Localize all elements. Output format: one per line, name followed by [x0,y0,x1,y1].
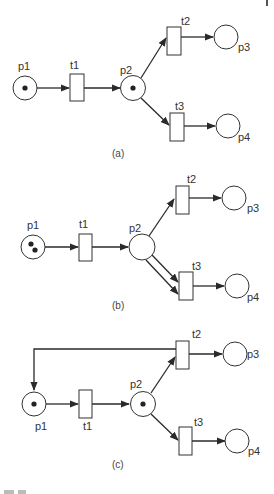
label-p1: p1 [27,219,39,231]
arc-p2-t2 [151,357,175,393]
place-p3 [223,342,247,366]
edge-artifact [266,0,268,6]
place-p3 [214,25,238,49]
place-p4 [225,429,249,453]
transition-t3 [170,113,184,141]
label-t3: t3 [194,416,203,428]
arc-p2-t3 [141,98,169,125]
token [31,401,36,406]
transition-t1 [79,390,92,418]
label-p3: p3 [238,41,250,53]
transition-t2 [176,186,189,214]
panel-a: p1 t1 p2 t2 p3 t3 p4 (a) [13,15,250,159]
place-p4 [216,114,240,138]
token [22,85,27,90]
caption-b: (b) [112,300,124,311]
place-p2 [129,234,155,260]
label-p4: p4 [247,291,259,303]
token [32,247,37,252]
label-t1: t1 [70,59,79,71]
transition-t3 [179,427,192,455]
token [140,401,145,406]
label-p3: p3 [247,202,259,214]
label-p2: p2 [120,64,132,76]
transition-t2 [176,341,189,369]
label-p1: p1 [18,60,30,72]
caption-c: (c) [112,459,124,470]
label-p4: p4 [248,445,260,457]
arc-p2-t3-1 [152,255,178,282]
label-p4: p4 [238,131,250,143]
label-t2: t2 [192,328,201,340]
caption-a: (a) [112,148,124,159]
arc-t2-p1 [34,349,176,390]
token [130,85,135,90]
arc-p2-t2 [141,38,166,78]
label-p2: p2 [129,222,141,234]
transition-t1 [79,234,92,261]
place-p1 [21,235,45,259]
label-p1: p1 [35,420,47,432]
token [28,241,33,246]
panel-b: p1 t1 p2 t2 p3 t3 p4 (b) [21,173,259,311]
label-t2: t2 [181,15,190,27]
place-p4 [225,274,249,298]
label-t3: t3 [175,100,184,112]
label-t1: t1 [79,218,88,230]
petri-net-figure: p1 t1 p2 t2 p3 t3 p4 (a) p1 t1 p2 t2 p3 … [0,0,274,494]
arc-p2-t3 [151,414,178,440]
label-t1: t1 [83,420,92,432]
clipped-text-fragment [4,490,26,494]
arc-p2-t2 [149,199,174,236]
transition-t3 [179,272,193,300]
panel-c: p1 t1 p2 t2 p3 t3 p4 (c) [22,328,260,470]
transition-t1 [70,74,84,101]
label-p2: p2 [130,378,142,390]
transition-t2 [167,27,181,55]
place-p3 [222,186,246,210]
label-p3: p3 [247,348,259,360]
label-t3: t3 [192,260,201,272]
label-t2: t2 [187,173,196,185]
